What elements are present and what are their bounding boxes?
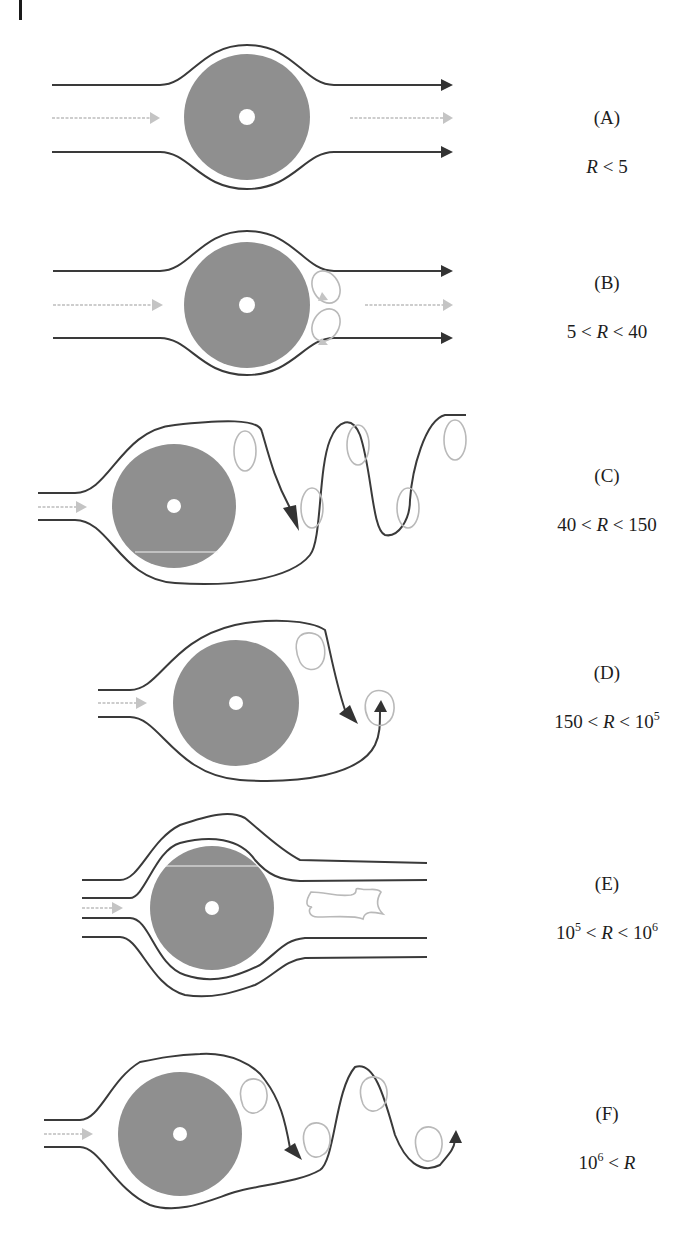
panel-d-label: (D) 150 < R < 105	[507, 663, 697, 731]
panel-b-label: (B) 5 < R < 40	[507, 273, 697, 341]
panel-e-label: (E) 105 < R < 106	[507, 874, 697, 942]
eddy-upper	[306, 266, 346, 308]
panel-letter: (E)	[507, 874, 697, 893]
reynolds-condition: 5 < R < 40	[507, 322, 697, 341]
panel-f-diagram	[44, 1054, 462, 1209]
reynolds-condition: R < 5	[507, 157, 697, 176]
panel-letter: (B)	[507, 273, 697, 292]
panel-a-diagram	[52, 45, 453, 189]
panel-a-label: (A) R < 5	[507, 108, 697, 176]
eddy-lower	[306, 304, 346, 346]
panel-letter: (D)	[507, 663, 697, 682]
panel-c-diagram	[38, 415, 466, 584]
panel-c-label: (C) 40 < R < 150	[507, 466, 697, 534]
reynolds-condition: 106 < R	[507, 1153, 697, 1172]
panel-e-diagram	[82, 814, 427, 996]
reynolds-condition: 105 < R < 106	[507, 923, 697, 942]
panel-letter: (A)	[507, 108, 697, 127]
panel-b-diagram	[53, 231, 453, 375]
reynolds-condition: 150 < R < 105	[507, 712, 697, 731]
panel-f-label: (F) 106 < R	[507, 1104, 697, 1172]
panel-d-diagram	[98, 621, 394, 781]
panel-letter: (F)	[507, 1104, 697, 1123]
reynolds-condition: 40 < R < 150	[507, 515, 697, 534]
flow-diagrams	[0, 0, 697, 1236]
flow-regimes-figure: (A) R < 5 (B) 5 < R < 40 (C) 40 < R < 15…	[0, 0, 697, 1236]
panel-letter: (C)	[507, 466, 697, 485]
